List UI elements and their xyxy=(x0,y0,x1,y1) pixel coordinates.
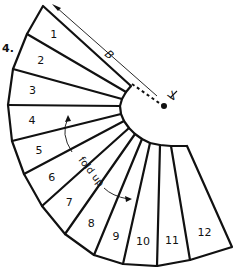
fold-arrow-right-icon xyxy=(125,196,132,202)
panel-crease-line xyxy=(157,145,160,266)
panel-label-9: 9 xyxy=(113,230,120,243)
panel-label-7: 7 xyxy=(66,196,73,209)
fan-diagram: 123456789101112 B V 4. fold up xyxy=(0,0,236,267)
fold-arc-upper xyxy=(65,118,72,152)
panel-crease-line xyxy=(8,105,120,106)
panel-label-4: 4 xyxy=(29,114,36,127)
vertex-point xyxy=(161,103,167,109)
inner-arc xyxy=(120,86,187,146)
panel-label-5: 5 xyxy=(35,144,42,157)
dimension-b: B xyxy=(52,4,157,96)
panel-label-8: 8 xyxy=(88,217,95,230)
panel-label-1: 1 xyxy=(50,28,57,41)
panel-label-2: 2 xyxy=(37,54,44,67)
figure-number: 4. xyxy=(2,42,14,55)
panel-label-10: 10 xyxy=(136,235,150,248)
panel-crease-line xyxy=(43,6,131,86)
fold-arc-lower xyxy=(104,188,128,199)
panel-label-11: 11 xyxy=(165,234,179,247)
panel-label-12: 12 xyxy=(198,226,212,239)
vertex-label: V xyxy=(165,88,181,104)
vertex-marker: V xyxy=(165,88,181,104)
panel-labels-group: 123456789101112 xyxy=(29,28,212,248)
panel-label-6: 6 xyxy=(48,171,55,184)
panel-label-3: 3 xyxy=(29,84,36,97)
fold-arrow-up-icon xyxy=(65,115,71,122)
fan-diagram-svg: 123456789101112 B V 4. fold up xyxy=(0,0,236,267)
